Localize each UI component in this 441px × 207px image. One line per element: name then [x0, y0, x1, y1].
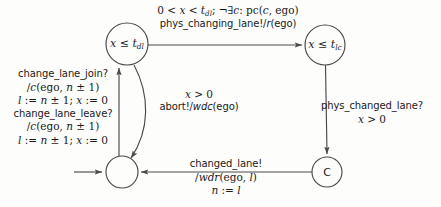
label-line: phys_changed_lane?	[321, 100, 423, 113]
label-line: abort!/wdc(ego)	[160, 101, 239, 114]
state-circle-x-le-tlc[interactable]	[305, 25, 345, 65]
edge-c-to-initial-label: changed_lane!/wdr(ego, l)n := l	[190, 158, 262, 198]
label-line: l := n ± 1; x := 0	[14, 134, 113, 147]
label-line: /wdr(ego, l)	[190, 171, 262, 184]
label-line: /c(ego, n ± 1)	[14, 81, 113, 94]
label-line: l := n ± 1; x := 0	[14, 95, 113, 108]
state-circle-c[interactable]	[312, 157, 342, 187]
label-line: changed_lane!	[190, 158, 262, 171]
label-line: change_lane_join?	[14, 68, 113, 81]
automaton-diagram: x ≤ tdlx ≤ tlcC0 < x < tdl; ¬∃c: pc(c, e…	[0, 0, 441, 207]
label-line: 0 < x < tdl; ¬∃c: pc(c, ego)	[157, 4, 298, 18]
label-line: x > 0	[321, 113, 423, 126]
label-line: x > 0	[160, 88, 239, 101]
edge-lc-to-c-label: phys_changed_lane?x > 0	[321, 100, 423, 126]
state-circle-x-le-tdl[interactable]	[106, 23, 148, 65]
label-line: change_lane_leave?	[14, 108, 113, 121]
edge-dl-to-initial-label: x > 0abort!/wdc(ego)	[160, 88, 239, 114]
label-line: /c(ego, n ± 1)	[14, 121, 113, 134]
state-circle-initial[interactable]	[106, 156, 138, 188]
label-line: phys_changing_lane!/r(ego)	[157, 18, 298, 31]
edge-initial-to-dl-label: change_lane_join?/c(ego, n ± 1)l := n ± …	[14, 68, 113, 147]
edge-dl-to-lc-label: 0 < x < tdl; ¬∃c: pc(c, ego)phys_changin…	[157, 4, 298, 31]
label-line: n := l	[190, 184, 262, 197]
edge-path-dl-to-initial	[131, 65, 146, 158]
